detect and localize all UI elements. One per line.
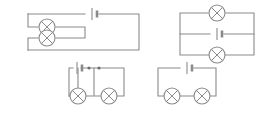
figure-background [0, 0, 266, 115]
lamp-icon-c-1 [70, 88, 86, 104]
junction-dot-c-2 [97, 66, 100, 69]
circuits-svg-canvas [0, 0, 266, 115]
lamp-icon-d-1 [164, 88, 180, 104]
junction-dot-c-1 [87, 66, 90, 69]
lamp-icon-b-2 [209, 47, 225, 63]
lamp-icon-c-2 [101, 88, 117, 104]
lamp-icon-a-2 [39, 30, 55, 46]
lamp-icon-d-2 [194, 88, 210, 104]
lamp-icon-b-1 [209, 5, 225, 21]
